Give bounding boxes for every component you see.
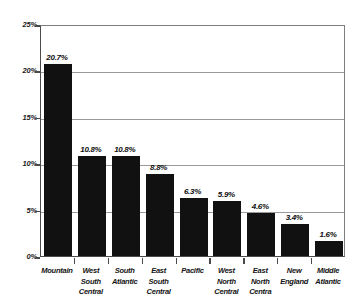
x-axis-tick-label[interactable]: Mountain — [40, 266, 74, 277]
gridline — [41, 119, 344, 120]
x-axis-label-line: Atlantic — [311, 277, 345, 288]
x-axis-label-line: Central — [209, 287, 243, 298]
x-axis-label-line: West — [74, 266, 108, 277]
x-axis-label-line: Centra — [243, 287, 277, 298]
x-axis-label-line: West — [209, 266, 243, 277]
bar-value-label: 20.7% — [37, 54, 77, 62]
gridline — [41, 72, 344, 73]
y-axis-tick-label: 0% — [3, 253, 37, 261]
x-axis-label-line: South — [108, 266, 142, 277]
x-axis-tick-mark — [277, 258, 278, 264]
x-axis-tick-mark — [176, 258, 177, 264]
bar-value-label: 10.8% — [105, 146, 145, 154]
x-axis-tick-label[interactable]: MiddleAtlantic — [311, 266, 345, 287]
x-axis-tick-label[interactable]: East NorthCentra — [243, 266, 277, 298]
x-axis-tick-mark — [108, 258, 109, 264]
bar[interactable] — [247, 213, 275, 256]
x-axis-tick-label[interactable]: Pacific — [176, 266, 210, 277]
y-axis-tick-label: 25% — [3, 21, 37, 29]
x-axis-tick-mark — [243, 258, 244, 264]
bar[interactable] — [281, 224, 309, 256]
bar[interactable] — [112, 156, 140, 256]
x-axis-tick-mark — [74, 258, 75, 264]
x-axis-label-line: North — [209, 277, 243, 288]
x-axis-tick-mark — [311, 258, 312, 264]
x-axis-tick-label[interactable]: East SouthCentral — [142, 266, 176, 298]
x-axis-label-line: Central — [142, 287, 176, 298]
bar-chart: 0%5%10%15%20%25% MountainWestSouthCentra… — [0, 0, 358, 307]
bar-value-label: 4.6% — [240, 203, 280, 211]
x-axis-tick-label[interactable]: WestSouthCentral — [74, 266, 108, 298]
bar[interactable] — [44, 64, 72, 256]
x-axis-label-line: Middle — [311, 266, 345, 277]
y-axis-tick-label: 10% — [3, 160, 37, 168]
x-axis-label-line: East South — [142, 266, 176, 287]
bar-value-label: 3.4% — [274, 214, 314, 222]
x-axis-tick-label[interactable]: NewEngland — [277, 266, 311, 287]
bar-value-label: 8.8% — [139, 164, 179, 172]
y-axis-tick-label: 15% — [3, 114, 37, 122]
x-axis-tick-label[interactable]: SouthAtlantic — [108, 266, 142, 287]
x-axis-label-line: Pacific — [176, 266, 210, 277]
bar[interactable] — [213, 201, 241, 256]
y-axis-tick-mark — [35, 257, 40, 259]
x-axis-label-line: England — [277, 277, 311, 288]
x-axis-label-line: East North — [243, 266, 277, 287]
x-axis-label-line: New — [277, 266, 311, 277]
x-axis-label-line: Central — [74, 287, 108, 298]
bar-value-label: 1.6% — [308, 231, 348, 239]
x-axis-label-line: Atlantic — [108, 277, 142, 288]
bar[interactable] — [78, 156, 106, 256]
x-axis-label-line: South — [74, 277, 108, 288]
x-axis-tick-mark — [209, 258, 210, 264]
x-axis-label-line: Mountain — [40, 266, 74, 277]
x-axis-tick-label[interactable]: WestNorthCentral — [209, 266, 243, 298]
x-axis-tick-mark — [142, 258, 143, 264]
bar[interactable] — [146, 174, 174, 256]
y-axis-tick-label: 5% — [3, 207, 37, 215]
y-axis-tick-label: 20% — [3, 67, 37, 75]
bar-value-label: 5.9% — [206, 191, 246, 199]
bar[interactable] — [180, 198, 208, 256]
bar[interactable] — [315, 241, 343, 256]
